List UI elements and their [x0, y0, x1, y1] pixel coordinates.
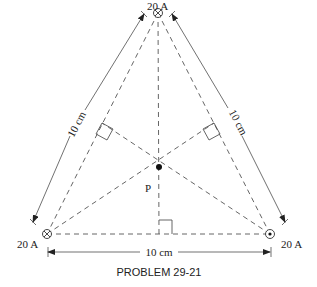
problem-figure: P 20 A 20 A 20 A 10 cm 10 cm 10 cm	[0, 0, 317, 287]
current-label-left: 20 A	[17, 238, 38, 250]
current-label-top: 20 A	[147, 0, 168, 12]
dimension-label-right: 10 cm	[227, 107, 251, 137]
wire-right-out-of-page-icon	[266, 230, 275, 239]
dimension-label-left: 10 cm	[65, 109, 89, 139]
point-p-label: P	[145, 182, 151, 194]
dimension-left	[30, 11, 147, 225]
dimension-right	[169, 11, 288, 225]
point-p-dot	[156, 164, 162, 170]
current-label-right: 20 A	[281, 238, 302, 250]
wire-left-into-page-icon	[43, 230, 52, 239]
figure-caption: PROBLEM 29-21	[117, 266, 202, 278]
triangle-diagram: P 20 A 20 A 20 A 10 cm 10 cm 10 cm	[0, 0, 317, 287]
right-angle-markers	[96, 123, 220, 234]
dimension-label-bottom: 10 cm	[145, 246, 173, 258]
